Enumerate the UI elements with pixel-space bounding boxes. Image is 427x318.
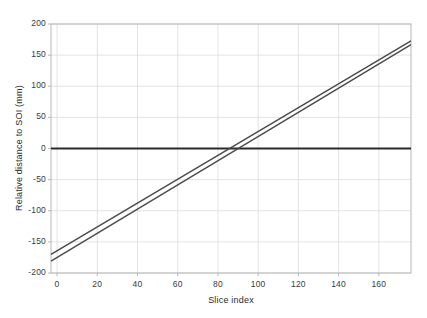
x-tick-label: 60 xyxy=(158,279,198,289)
y-tick-label: -150 xyxy=(15,236,46,246)
x-tick-label: 120 xyxy=(278,279,318,289)
plot-canvas xyxy=(0,0,427,318)
x-tick-label: 20 xyxy=(77,279,117,289)
x-tick-label: 140 xyxy=(319,279,359,289)
y-axis-title: Relative distance to SOI (mm) xyxy=(14,85,24,211)
x-tick-label: 40 xyxy=(117,279,157,289)
x-tick-label: 0 xyxy=(37,279,77,289)
x-tick-label: 160 xyxy=(359,279,399,289)
y-tick-label: 200 xyxy=(15,18,46,28)
chart-figure: 200150100500-50-100-150-200 020406080100… xyxy=(0,0,427,318)
x-tick-label: 80 xyxy=(198,279,238,289)
y-tick-label: -200 xyxy=(15,267,46,277)
y-tick-label: 150 xyxy=(15,49,46,59)
x-tick-label: 100 xyxy=(238,279,278,289)
x-axis-title: Slice index xyxy=(171,295,291,305)
